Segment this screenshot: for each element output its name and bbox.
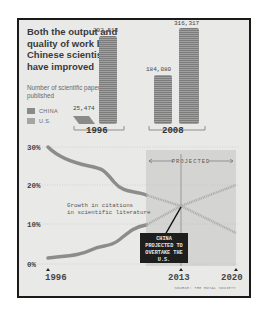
svg-text:CHINA: CHINA xyxy=(156,236,172,242)
svg-text:0%: 0% xyxy=(27,261,37,269)
svg-text:30%: 30% xyxy=(27,144,41,152)
infographic-frame: Both the output and quality of work by C… xyxy=(17,18,251,298)
svg-text:U.S.: U.S. xyxy=(158,257,170,263)
svg-text:1996: 1996 xyxy=(45,273,67,283)
svg-text:20%: 20% xyxy=(27,182,41,190)
x-axis-labels: 1996 2013 2020 xyxy=(45,273,243,283)
us-line-actual xyxy=(48,147,146,195)
svg-text:PROJECTED: PROJECTED xyxy=(172,158,211,165)
citations-annotation-line1: Growth in citations xyxy=(67,202,133,209)
line-chart: PROJECTED 30% 20% 10% 0% Growth in citat… xyxy=(19,20,249,296)
svg-text:OVERTAKE THE: OVERTAKE THE xyxy=(145,250,182,256)
china-line-actual xyxy=(48,225,146,258)
source-note: SOURCE: THE ROYAL SOCIETY xyxy=(175,286,237,290)
svg-text:PROJECTED TO: PROJECTED TO xyxy=(145,243,182,249)
svg-text:2013: 2013 xyxy=(168,273,190,283)
svg-text:10%: 10% xyxy=(27,221,41,229)
citations-annotation-line2: in scientific literature xyxy=(67,209,151,216)
y-axis-labels: 30% 20% 10% 0% xyxy=(27,144,41,269)
x-axis-ticks xyxy=(46,268,238,271)
svg-text:2020: 2020 xyxy=(221,273,243,283)
